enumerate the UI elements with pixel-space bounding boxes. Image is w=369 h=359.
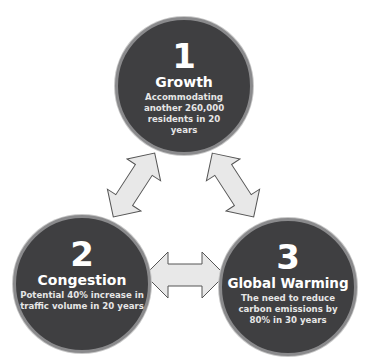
- double-arrow-2-3: [145, 252, 225, 298]
- node-number: 1: [118, 38, 250, 74]
- node-title: Congestion: [16, 272, 148, 289]
- node-description: Accommodating another 260,000 residents …: [138, 92, 230, 136]
- node-description: The need to reduce carbon emissions by 8…: [232, 293, 344, 326]
- node-number: 3: [222, 239, 354, 275]
- node-growth: 1 Growth Accommodating another 260,000 r…: [115, 17, 253, 155]
- double-arrow-1-2: [97, 142, 172, 228]
- node-title: Global Warming: [216, 275, 360, 292]
- node-number: 2: [16, 236, 148, 272]
- node-description: Potential 40% increase in traffic volume…: [20, 290, 144, 312]
- node-global-warming: 3 Global Warming The need to reduce carb…: [219, 218, 357, 356]
- node-congestion: 2 Congestion Potential 40% increase in t…: [13, 215, 151, 353]
- double-arrow-1-3: [196, 142, 271, 228]
- node-title: Growth: [118, 74, 250, 91]
